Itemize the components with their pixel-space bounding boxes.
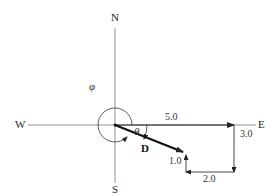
south-label: S [112,184,118,195]
theta-label: θ [134,126,139,137]
north-label: N [111,12,119,23]
east-label: E [258,119,265,130]
label-5-0: 5.0 [165,112,178,122]
resultant-label: D [141,143,149,154]
origin-point [114,124,117,127]
label-1-0: 1.0 [169,156,182,166]
west-label: W [15,119,25,130]
phi-label: φ [89,81,95,92]
label-3-0: 3.0 [240,129,253,139]
label-2-0: 2.0 [203,174,216,184]
vector-diagram [0,0,274,196]
